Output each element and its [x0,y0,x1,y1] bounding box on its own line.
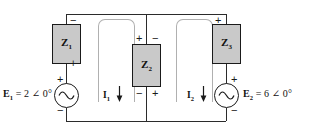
source-e2-polarity-bottom: − [231,105,237,116]
impedance-z1[interactable]: Z1 [52,24,81,64]
wire-center-lower [146,87,147,121]
impedance-z2-polarity-top-right: − [152,33,158,44]
mesh-current-i2-label: I2 [187,90,194,102]
impedance-z2-polarity-top-left: + [136,33,142,44]
impedance-z3-label: Z3 [221,36,232,51]
wire-left-lower [66,108,67,121]
mesh-current-i1-label: I1 [103,90,110,102]
source-e2-equation: E2 = 6 ∠ 0° [243,88,292,101]
impedance-z1-polarity-bottom: + [70,58,76,69]
source-e1-polarity-bottom: − [57,105,63,116]
circuit-diagram: Z1 − + Z2 + − − + Z3 + − + − E1 = 2 ∠ 0°… [0,0,311,136]
impedance-z1-polarity-top: − [70,15,76,26]
impedance-z2-label: Z2 [141,58,152,73]
wire-right-mid [226,64,227,84]
impedance-z3-polarity-bottom: − [215,58,221,69]
wire-top-left [66,14,146,15]
wire-right-lower [226,108,227,121]
source-e1-equation: E1 = 2 ∠ 0° [3,88,52,101]
impedance-z2-polarity-bottom-left: − [136,88,142,99]
impedance-z2-polarity-bottom-right: + [152,88,158,99]
wire-left-mid [66,64,67,84]
impedance-z2[interactable]: Z2 [132,44,161,87]
current-arrow-down-i2 [200,86,207,102]
wire-top-right [146,14,226,15]
impedance-z3-polarity-top: + [215,15,221,26]
wire-bottom-left [66,121,146,122]
wire-right-upper [226,14,227,24]
wire-left-upper [66,14,67,24]
source-e1-polarity-top: + [57,74,63,85]
wire-bottom-right [146,121,226,122]
source-e2-polarity-top: + [231,74,237,85]
current-arrow-down-i1 [116,86,123,102]
impedance-z1-label: Z1 [61,36,72,51]
mesh-loop-guide-2 [176,19,213,102]
wire-center-upper [146,14,147,44]
